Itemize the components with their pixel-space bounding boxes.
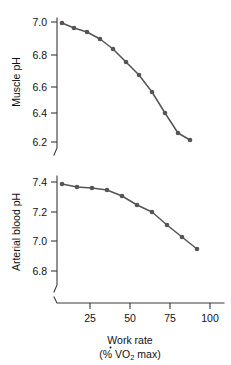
data-point bbox=[90, 186, 95, 191]
data-point bbox=[72, 26, 77, 31]
ytick-label-muscle-1: 6.8 bbox=[32, 49, 47, 61]
data-point bbox=[111, 47, 116, 52]
data-point bbox=[124, 60, 129, 65]
yaxis-label-arterial-blood-ph: Arterial blood pH bbox=[10, 193, 22, 271]
ytick-label-muscle-4: 6.2 bbox=[32, 136, 47, 148]
data-point bbox=[195, 247, 200, 252]
data-line-arterial-blood-ph bbox=[62, 184, 197, 249]
data-point bbox=[60, 182, 65, 187]
xaxis-label-line1: Work rate bbox=[107, 334, 152, 346]
data-point bbox=[163, 111, 168, 116]
ytick-label-arterial-1: 7.2 bbox=[32, 206, 47, 218]
data-points-arterial-blood-ph bbox=[60, 182, 200, 252]
chart-svg: Muscle pH 7.0 6.8 6.6 6.4 6.2 bbox=[0, 0, 231, 365]
xtick-label-0: 25 bbox=[84, 312, 96, 324]
data-point bbox=[85, 30, 90, 35]
data-point bbox=[165, 223, 170, 228]
data-point bbox=[105, 188, 110, 193]
v-dot-overdot-icon bbox=[110, 347, 112, 349]
ytick-label-muscle-2: 6.6 bbox=[32, 81, 47, 93]
figure-container: Muscle pH 7.0 6.8 6.6 6.4 6.2 bbox=[0, 0, 231, 365]
xaxis-label-line2: (% VO2 max) bbox=[99, 347, 160, 362]
ytick-label-arterial-2: 7.0 bbox=[32, 235, 47, 247]
data-point bbox=[60, 21, 65, 26]
panel-muscle-ph: Muscle pH 7.0 6.8 6.6 6.4 6.2 bbox=[10, 16, 192, 155]
data-point bbox=[137, 73, 142, 78]
data-point bbox=[150, 90, 155, 95]
xaxis-spine bbox=[54, 297, 224, 303]
data-point bbox=[98, 37, 103, 42]
xaxis-label-prefix: (% bbox=[99, 348, 115, 360]
yaxis-label-muscle-ph: Muscle pH bbox=[10, 57, 22, 107]
panel-arterial-blood-ph: Arterial blood pH 7.4 7.2 7.0 6.8 25 50 bbox=[10, 176, 224, 362]
xaxis-label-v: V bbox=[115, 348, 122, 360]
xtick-label-1: 50 bbox=[124, 312, 136, 324]
data-point bbox=[180, 235, 185, 240]
data-point bbox=[135, 203, 140, 208]
xtick-label-3: 100 bbox=[201, 312, 219, 324]
data-point bbox=[150, 210, 155, 215]
data-line-muscle-ph bbox=[62, 23, 190, 140]
data-point bbox=[188, 138, 193, 143]
data-point bbox=[75, 185, 80, 190]
xaxis-label-o: O bbox=[122, 348, 130, 360]
data-point bbox=[120, 194, 125, 199]
ytick-label-muscle-0: 7.0 bbox=[32, 16, 47, 28]
ytick-label-arterial-0: 7.4 bbox=[32, 176, 47, 188]
ytick-label-muscle-3: 6.4 bbox=[32, 107, 47, 119]
ytick-label-arterial-3: 6.8 bbox=[32, 265, 47, 277]
xtick-label-2: 75 bbox=[164, 312, 176, 324]
svg-text:(% VO2 max): (% VO2 max) bbox=[99, 348, 160, 362]
data-point bbox=[176, 131, 181, 136]
xaxis-label-suffix: max) bbox=[134, 348, 160, 360]
yaxis-spine-arterial bbox=[54, 176, 57, 292]
